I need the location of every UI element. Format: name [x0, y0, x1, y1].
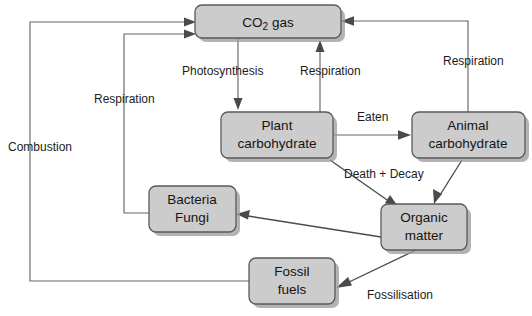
diagram-canvas: CO2 gas Plant carbohydrate Animal carboh…	[0, 0, 532, 316]
node-organic-matter[interactable]: Organic matter	[381, 204, 471, 254]
edge-label-fossilisation: Fossilisation	[367, 288, 433, 302]
flow-respiration-bacteria-arrowhead	[184, 30, 196, 39]
edge-label-photosynthesis: Photosynthesis	[182, 64, 263, 78]
animal-carbohydrate-label-line2: carbohydrate	[429, 136, 508, 151]
edge-label-respiration-bacteria: Respiration	[94, 92, 155, 106]
plant-carbohydrate-label-line2: carbohydrate	[238, 136, 317, 151]
edge-label-respiration-plant: Respiration	[300, 64, 361, 78]
node-fossil-fuels[interactable]: Fossil fuels	[249, 258, 339, 308]
flow-photosynthesis-arrowhead	[234, 98, 243, 110]
plant-carbohydrate-label-line1: Plant	[262, 118, 293, 133]
flow-eaten	[333, 130, 411, 140]
flow-fossilisation-path	[347, 250, 416, 283]
edge-label-death-decay: Death + Decay	[344, 167, 424, 181]
node-co2-gas[interactable]: CO2 gas	[195, 5, 345, 42]
fossil-fuels-label-line2: fuels	[278, 282, 307, 297]
edge-label-respiration-animal: Respiration	[443, 54, 504, 68]
node-animal-carbohydrate[interactable]: Animal carbohydrate	[412, 112, 529, 162]
node-plant-carbohydrate[interactable]: Plant carbohydrate	[221, 112, 337, 162]
organic-matter-label-line2: matter	[405, 228, 444, 243]
edge-label-eaten: Eaten	[357, 110, 388, 124]
flow-death-decay-animal-arrowhead	[433, 189, 442, 204]
flow-combustion-arrowhead	[184, 18, 196, 27]
co2-gas-label: CO2 gas	[242, 14, 294, 31]
flow-fossilisation	[336, 250, 416, 288]
bacteria-fungi-label-line2: Fungi	[175, 210, 209, 225]
flow-decompose-path	[248, 216, 381, 237]
animal-carbohydrate-label-line1: Animal	[447, 118, 488, 133]
edge-label-combustion: Combustion	[8, 140, 72, 154]
fossil-fuels-label-line1: Fossil	[274, 264, 309, 279]
flow-death-decay-animal-path	[440, 160, 462, 195]
node-bacteria-fungi[interactable]: Bacteria Fungi	[149, 186, 240, 236]
flow-decompose	[236, 210, 381, 237]
organic-matter-label-line1: Organic	[400, 210, 448, 225]
flow-death-decay-animal	[433, 160, 462, 204]
flow-eaten-arrowhead	[398, 130, 411, 140]
bacteria-fungi-label-line1: Bacteria	[167, 192, 217, 207]
carbon-cycle-diagram: CO2 gas Plant carbohydrate Animal carboh…	[0, 0, 532, 316]
